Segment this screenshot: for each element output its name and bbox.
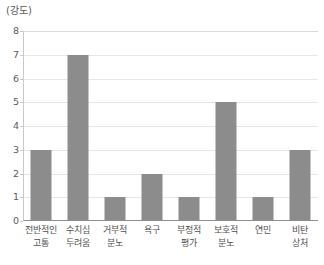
bar[interactable] [68,55,89,221]
bar-slot [97,31,134,221]
y-axis-title: (강도) [6,5,32,17]
y-axis-tick-label: 2 [0,169,19,179]
y-axis-tick-label: 3 [0,145,19,155]
y-axis-tick-labels: 012345678 [0,31,19,221]
bar-slot [281,31,318,221]
x-axis-category-label: 보호적분노 [207,224,244,249]
bar[interactable] [31,150,52,221]
y-axis-tick-label: 5 [0,97,19,107]
bar-slot [134,31,171,221]
x-axis-category-label: 수치심두려움 [60,224,97,249]
x-axis-category-labels: 전반적인고통수치심두려움거부적분노욕구부정적평가보호적분노연민비탄상처 [23,224,318,262]
bar[interactable] [142,174,163,222]
x-axis-category-label: 비탄상처 [281,224,318,249]
y-axis-tick-mark [20,221,23,222]
x-axis-category-label: 욕구 [134,224,171,237]
bar-chart: (강도) 012345678 전반적인고통수치심두려움거부적분노욕구부정적평가보… [0,0,324,265]
bar[interactable] [105,197,126,221]
bar-slot [60,31,97,221]
y-axis-tick-label: 7 [0,50,19,60]
bars-layer [23,31,318,221]
x-axis-category-label: 부정적평가 [171,224,208,249]
y-axis-tick-label: 1 [0,192,19,202]
x-axis-category-label: 거부적분노 [97,224,134,249]
bar[interactable] [178,197,199,221]
y-axis-tick-label: 6 [0,74,19,84]
bar[interactable] [289,150,310,221]
bar[interactable] [215,102,236,221]
bar-slot [244,31,281,221]
x-axis-category-label: 전반적인고통 [23,224,60,249]
y-axis-tick-label: 4 [0,121,19,131]
x-axis-category-label: 연민 [244,224,281,237]
bar-slot [23,31,60,221]
bar-slot [207,31,244,221]
y-axis-tick-label: 0 [0,216,19,226]
y-axis-tick-label: 8 [0,26,19,36]
bar[interactable] [252,197,273,221]
bar-slot [171,31,208,221]
